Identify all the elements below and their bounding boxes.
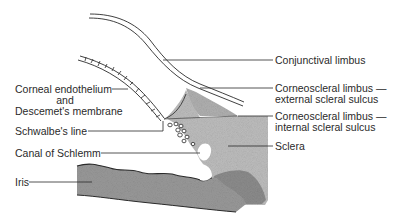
label-schwalbes-line: Schwalbe's line	[15, 126, 87, 137]
label-canal-of-schlemm: Canal of Schlemm	[15, 148, 101, 159]
label-descemets-membrane: Descemet's membrane	[15, 106, 123, 117]
label-corneoscleral-internal: Corneoscleral limbus — internal scleral …	[275, 111, 386, 133]
limbus-diagram: Corneal endothelium and Descemet's membr…	[0, 0, 394, 213]
label-sclera: Sclera	[275, 141, 305, 152]
label-corneoscleral-external: Corneoscleral limbus — external scleral …	[275, 83, 386, 105]
label-iris: Iris	[15, 177, 29, 188]
label-line: internal scleral sulcus	[275, 122, 386, 133]
label-conjunctival-limbus: Conjunctival limbus	[275, 55, 365, 66]
label-line: external scleral sulcus	[275, 94, 386, 105]
label-line: Descemet's membrane	[15, 106, 123, 117]
